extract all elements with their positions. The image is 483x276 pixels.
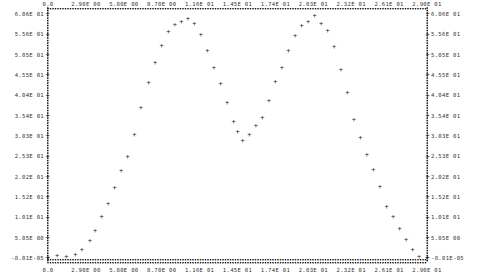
svg-text:+: + [425,92,429,100]
data-point: + [293,32,297,40]
x-tick-label: 0.0 [42,267,53,273]
data-point: + [391,213,395,221]
svg-text:+: + [45,153,49,161]
svg-text:+: + [425,112,429,120]
x-tick-label: 2.03E 01 [299,267,328,273]
svg-text:+: + [45,193,49,201]
data-point: + [218,80,222,88]
data-point: + [173,21,177,29]
svg-text:+: + [425,193,429,201]
svg-text:+: + [45,71,49,79]
data-point: + [339,66,343,74]
y-axis-right-labels: 6.06E 015.56E 015.05E 014.55E 014.04E 01… [431,11,464,261]
data-point: + [319,20,323,28]
svg-text:+: + [425,51,429,59]
data-point: + [235,128,239,136]
data-point: + [332,43,336,51]
data-point: + [80,246,84,254]
y-tick-label: 5.56E 01 [15,31,44,37]
y-tick-label: 3.54E 01 [431,113,460,119]
x-tick-label: 2.90E 00 [71,1,100,7]
data-point: + [286,47,290,55]
y-tick-label: 4.04E 01 [431,92,460,98]
y-tick-label: 4.55E 01 [431,72,460,78]
data-point: + [365,151,369,159]
data-point: + [267,97,271,105]
x-tick-label: 2.32E 01 [337,1,366,7]
data-point: + [254,122,258,130]
data-point: + [241,137,245,145]
data-point: + [299,22,303,30]
data-point: + [358,134,362,142]
data-point: + [64,253,68,261]
data-point: + [247,131,251,139]
data-point: + [153,59,157,67]
data-point: + [73,251,77,259]
svg-text:+: + [425,132,429,140]
y-tick-label: 5.05E 00 [15,235,44,241]
data-point: + [132,131,136,139]
svg-text:+: + [45,173,49,181]
y-tick-label: 1.52E 01 [15,194,44,200]
data-point: + [139,104,143,112]
data-point: + [212,64,216,72]
svg-text:+: + [425,234,429,242]
data-point: + [378,183,382,191]
data-point: + [88,237,92,245]
y-tick-label: -8.01E-05 [431,255,464,261]
y-tick-label: 5.05E 01 [15,52,44,58]
data-point: + [260,114,264,122]
data-point: + [352,116,356,124]
data-point: + [55,252,59,260]
data-point: + [345,89,349,97]
data-point: + [186,15,190,23]
data-point: + [192,20,196,28]
y-tick-label: 3.54E 01 [15,113,44,119]
x-tick-label: 2.03E 01 [299,1,328,7]
svg-text:+: + [45,234,49,242]
x-tick-label: 1.45E 01 [223,267,252,273]
svg-text:+: + [45,31,49,39]
data-point: + [46,254,50,262]
data-point: + [126,153,130,161]
svg-text:+: + [45,112,49,120]
svg-text:+: + [425,173,429,181]
data-point: + [425,254,429,262]
data-point: + [384,203,388,211]
x-axis-bottom-labels: 0.02.90E 005.80E 008.70E 001.16E 011.45E… [42,267,441,273]
data-point: + [205,47,209,55]
y-tick-label: 2.02E 01 [15,174,44,180]
x-tick-label: 2.61E 01 [374,267,403,273]
svg-text:+: + [45,214,49,222]
y-tick-label: 4.55E 01 [15,72,44,78]
y-tick-label: 5.05E 00 [431,235,460,241]
y-axis-left-labels: 6.06E 015.56E 015.05E 014.55E 014.04E 01… [11,11,44,261]
data-point: + [99,213,103,221]
svg-text:+: + [425,10,429,18]
data-point: + [273,78,277,86]
data-point: + [225,99,229,107]
svg-text:+: + [45,132,49,140]
y-tick-label: 1.52E 01 [431,194,460,200]
y-tick-label: 3.03E 01 [15,133,44,139]
x-tick-label: 2.61E 01 [374,1,403,7]
x-tick-label: 1.45E 01 [223,1,252,7]
line-printer-plot: ++++++++++++++++++++++++++ 0.02.90E 005.… [0,0,483,276]
data-points: ++++++++++++++++++++++++++++++++++++++++… [46,12,429,263]
data-point: + [106,200,110,208]
data-point: + [417,253,421,261]
y-tick-label: 3.03E 01 [431,133,460,139]
data-point: + [147,79,151,87]
data-point: + [411,246,415,254]
x-tick-label: 1.16E 01 [185,1,214,7]
svg-text:+: + [425,71,429,79]
x-tick-label: 2.90E 01 [412,1,441,7]
data-point: + [231,118,235,126]
x-tick-label: 2.90E 01 [412,267,441,273]
data-point: + [93,227,97,235]
data-point: + [312,12,316,20]
y-tick-label: 6.06E 01 [431,11,460,17]
data-point: + [326,27,330,35]
x-tick-label: 5.80E 00 [109,267,138,273]
y-tick-label: 2.53E 01 [15,153,44,159]
